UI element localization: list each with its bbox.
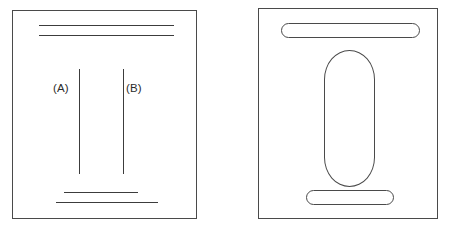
right-panel-center-capsule [324, 50, 375, 187]
label-a: (A) [53, 83, 69, 95]
left-panel-bottom-line-1 [64, 192, 138, 193]
right-panel [258, 8, 438, 219]
left-panel-top-line-1 [39, 25, 174, 26]
label-b: (B) [126, 83, 142, 95]
left-panel: (A) (B) [12, 10, 197, 219]
left-panel-vertical-line-b [123, 69, 124, 174]
right-panel-top-capsule [281, 23, 420, 38]
left-panel-bottom-line-2 [56, 202, 158, 203]
right-panel-bottom-capsule [306, 190, 394, 205]
figure-root: (A) (B) [0, 0, 451, 233]
left-panel-top-line-2 [39, 35, 174, 36]
left-panel-vertical-line-a [79, 69, 80, 174]
